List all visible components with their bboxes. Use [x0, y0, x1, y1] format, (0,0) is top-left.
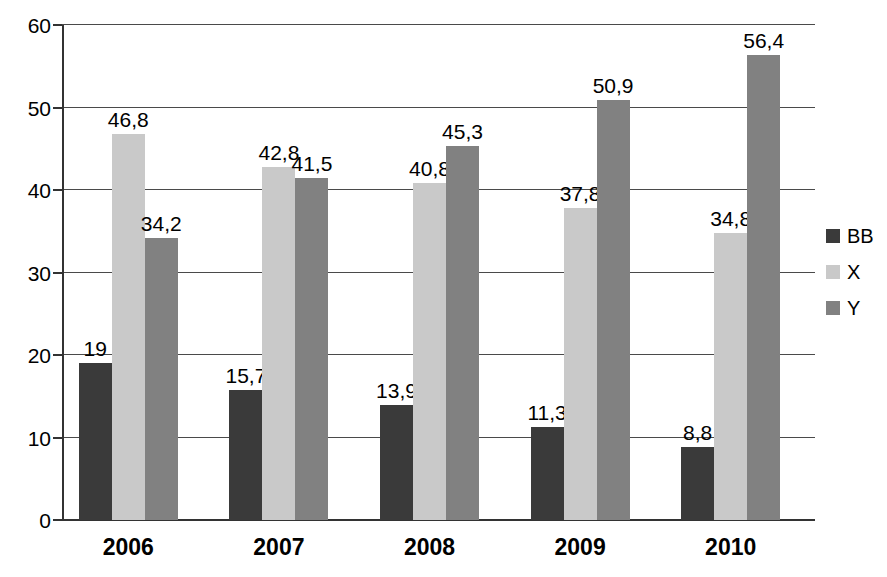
- bar-fill: [714, 233, 747, 520]
- bar-fill: [597, 100, 630, 520]
- y-tick-mark: [53, 272, 62, 274]
- bar-value-label: 34,2: [141, 213, 182, 235]
- bar-fill: [262, 167, 295, 520]
- bar[interactable]: 42,8: [262, 167, 295, 520]
- bar[interactable]: 45,3: [446, 146, 479, 520]
- y-tick-mark: [53, 437, 62, 439]
- bar-value-label: 11,3: [527, 402, 566, 424]
- y-tick-label: 60: [28, 15, 51, 36]
- bar-groups: 1946,834,215,742,841,513,940,845,311,337…: [62, 25, 815, 520]
- bar[interactable]: 34,8: [714, 233, 747, 520]
- bar-value-label: 19: [84, 338, 107, 360]
- bar-value-label: 34,8: [710, 208, 751, 230]
- bar-group: 1946,834,2: [79, 25, 178, 520]
- y-tick-label: 10: [28, 427, 51, 448]
- y-tick-mark: [53, 519, 62, 521]
- bar[interactable]: 56,4: [747, 55, 780, 520]
- bar[interactable]: 46,8: [112, 134, 145, 520]
- y-tick-label: 0: [39, 510, 51, 531]
- bar[interactable]: 40,8: [413, 183, 446, 520]
- y-tick-mark: [53, 354, 62, 356]
- x-axis-category-label: 2007: [253, 534, 304, 560]
- bar-group: 15,742,841,5: [229, 25, 328, 520]
- y-tick-mark: [53, 107, 62, 109]
- bar[interactable]: 8,8: [681, 447, 714, 520]
- y-axis-line: [62, 25, 64, 521]
- bar-value-label: 40,8: [409, 158, 450, 180]
- legend-swatch-y: [826, 301, 840, 315]
- bar-fill: [413, 183, 446, 520]
- chart-legend: BBXY: [826, 218, 874, 326]
- y-tick-mark: [53, 189, 62, 191]
- bar-value-label: 46,8: [108, 109, 149, 131]
- bar-fill: [295, 178, 328, 520]
- bar-value-label: 56,4: [743, 30, 784, 52]
- plot-area: 0102030405060 1946,834,215,742,841,513,9…: [62, 25, 815, 520]
- bar-fill: [747, 55, 780, 520]
- bar[interactable]: 37,8: [564, 208, 597, 520]
- bar-value-label: 50,9: [593, 75, 634, 97]
- bar-group: 8,834,856,4: [681, 25, 780, 520]
- bar-fill: [79, 363, 112, 520]
- bar-value-label: 37,8: [560, 183, 601, 205]
- x-axis-labels: 20062007200820092010: [62, 528, 815, 568]
- x-axis-category-label: 2010: [705, 534, 756, 560]
- y-tick-label: 40: [28, 180, 51, 201]
- bar-fill: [380, 405, 413, 520]
- legend-label: Y: [847, 298, 860, 318]
- bar-fill: [446, 146, 479, 520]
- legend-swatch-x: [826, 265, 840, 279]
- y-tick-mark: [53, 24, 62, 26]
- bar-value-label: 41,5: [291, 153, 332, 175]
- legend-label: BB: [847, 226, 874, 246]
- bar-fill: [145, 238, 178, 520]
- bar-fill: [681, 447, 714, 520]
- bar-fill: [112, 134, 145, 520]
- bar[interactable]: 11,3: [531, 427, 564, 520]
- y-tick-label: 30: [28, 262, 51, 283]
- bar-value-label: 8,8: [683, 422, 712, 444]
- bar[interactable]: 13,9: [380, 405, 413, 520]
- x-axis-category-label: 2006: [103, 534, 154, 560]
- bar-value-label: 45,3: [442, 121, 483, 143]
- bar-chart: 0102030405060 1946,834,215,742,841,513,9…: [0, 0, 887, 577]
- bar-group: 13,940,845,3: [380, 25, 479, 520]
- legend-item-bb[interactable]: BB: [826, 218, 874, 254]
- bar[interactable]: 15,7: [229, 390, 262, 520]
- x-axis-category-label: 2008: [404, 534, 455, 560]
- bar-value-label: 13,9: [376, 380, 417, 402]
- bar-fill: [531, 427, 564, 520]
- bar-value-label: 15,7: [225, 365, 266, 387]
- legend-item-x[interactable]: X: [826, 254, 874, 290]
- legend-label: X: [847, 262, 860, 282]
- y-tick-label: 20: [28, 345, 51, 366]
- bar[interactable]: 50,9: [597, 100, 630, 520]
- bar[interactable]: 19: [79, 363, 112, 520]
- legend-item-y[interactable]: Y: [826, 290, 874, 326]
- x-axis-category-label: 2009: [555, 534, 606, 560]
- y-tick-label: 50: [28, 97, 51, 118]
- bar-fill: [229, 390, 262, 520]
- bar-group: 11,337,850,9: [531, 25, 630, 520]
- legend-swatch-bb: [826, 229, 840, 243]
- bar-fill: [564, 208, 597, 520]
- bar[interactable]: 34,2: [145, 238, 178, 520]
- bar[interactable]: 41,5: [295, 178, 328, 520]
